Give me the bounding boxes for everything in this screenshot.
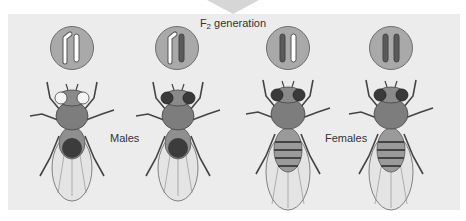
females-label: Females bbox=[325, 132, 367, 144]
y-chromosome-icon bbox=[155, 26, 199, 70]
males-label: Males bbox=[110, 132, 139, 144]
chromosome-circle-male-red bbox=[155, 26, 199, 70]
chromosome-circle-female-het bbox=[266, 26, 310, 70]
male-fly-red-eyes bbox=[130, 80, 226, 210]
down-arrow-icon bbox=[207, 0, 259, 14]
female-fly-red-eyes-homozygous bbox=[343, 78, 439, 218]
x-chromosome-pair-icon bbox=[369, 26, 413, 70]
x-chromosome-pair-icon bbox=[266, 26, 310, 70]
chromosome-circle-female-hom bbox=[369, 26, 413, 70]
male-fly-white-eyes bbox=[24, 80, 120, 210]
title-suffix: generation bbox=[211, 17, 266, 29]
chromosome-circle-male-white bbox=[50, 26, 94, 70]
title-prefix: F bbox=[200, 17, 207, 29]
y-chromosome-icon bbox=[50, 26, 94, 70]
female-fly-red-eyes-carrier bbox=[240, 78, 336, 218]
